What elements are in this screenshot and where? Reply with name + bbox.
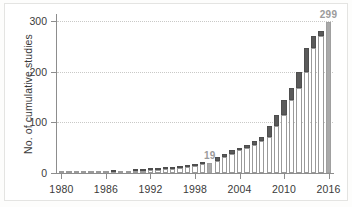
bar-segment-lower	[281, 115, 286, 173]
bar	[126, 171, 131, 173]
bar	[274, 115, 279, 173]
bar	[81, 173, 86, 174]
bar-segment-upper	[244, 145, 249, 149]
bar-segment-lower	[222, 157, 227, 173]
bar-segment-lower	[267, 137, 272, 173]
bar	[252, 141, 257, 173]
y-axis-label: No. of cumulative studies	[22, 19, 34, 169]
bar-segment-upper	[177, 166, 182, 168]
bar	[215, 157, 220, 173]
bar-segment-upper	[133, 169, 138, 171]
bar-segment-lower	[148, 170, 153, 173]
chart-canvas: No. of cumulative studies 0100200300 198…	[0, 0, 352, 207]
x-tick-label: 2016	[307, 183, 351, 195]
bar-segment-upper	[163, 167, 168, 169]
bar	[88, 172, 93, 173]
x-tick-label: 1980	[39, 183, 83, 195]
bar-segment-lower	[185, 167, 190, 173]
bar	[155, 169, 160, 173]
bar-segment-upper	[192, 164, 197, 166]
bar-segment-lower	[229, 154, 234, 173]
bar-segment-upper	[155, 168, 160, 170]
bar	[111, 171, 116, 173]
bar-segment-upper	[281, 100, 286, 116]
bar-segment-lower	[318, 36, 323, 173]
bar	[311, 36, 316, 173]
bar-segment-upper	[259, 137, 264, 142]
bar-segment-lower	[200, 164, 205, 173]
bar-segment-lower	[177, 168, 182, 173]
bar-segment-lower	[259, 141, 264, 173]
bar-segment-lower	[207, 163, 212, 173]
bar-segment-lower	[311, 48, 316, 173]
bar	[296, 72, 301, 173]
bar-segment-lower	[215, 161, 220, 173]
bar-segment-upper	[140, 169, 145, 171]
bar	[59, 173, 64, 174]
bar-segment-lower	[96, 171, 101, 173]
bar-value-label: 299	[320, 9, 338, 20]
bar-segment-upper	[111, 170, 116, 172]
bar-segment-lower	[192, 166, 197, 173]
x-tick-label: 1986	[84, 183, 128, 195]
bar-segment-lower	[59, 171, 64, 173]
x-tick-mark	[240, 173, 241, 179]
bar-segment-lower	[66, 171, 71, 173]
y-tick-label: 0	[13, 167, 47, 179]
bar-segment-lower	[304, 72, 309, 173]
bar-segment-lower	[296, 88, 301, 173]
bar	[237, 148, 242, 173]
bar	[140, 170, 145, 173]
bar	[177, 167, 182, 173]
bar	[304, 48, 309, 173]
bar	[318, 31, 323, 173]
bar-segment-upper	[215, 157, 220, 161]
bar-segment-upper	[274, 115, 279, 126]
bar-segment-lower	[326, 22, 331, 173]
bar-segment-upper	[318, 31, 323, 36]
x-tick-label: 2010	[262, 183, 306, 195]
bar-segment-lower	[74, 171, 79, 173]
bar	[185, 166, 190, 173]
bar-segment-lower	[103, 171, 108, 173]
x-tick-label: 2004	[218, 183, 262, 195]
bar	[192, 164, 197, 173]
bar	[289, 88, 294, 173]
bar-segment-upper	[237, 148, 242, 150]
bar-segment-lower	[126, 171, 131, 173]
bar	[133, 171, 138, 173]
bar-segment-upper	[311, 36, 316, 49]
bar-segment-lower	[163, 169, 168, 173]
bar-segment-upper	[170, 167, 175, 169]
bar-segment-upper	[200, 162, 205, 164]
bar-segment-lower	[88, 171, 93, 173]
bar-segment-upper	[304, 48, 309, 71]
bar-segment-upper	[229, 150, 234, 154]
bar	[267, 126, 272, 173]
bar: 19	[207, 163, 212, 173]
bar-segment-upper	[267, 126, 272, 136]
bar-segment-upper	[296, 72, 301, 88]
bar	[222, 154, 227, 173]
bar	[244, 145, 249, 173]
bar-segment-lower	[237, 150, 242, 173]
x-tick-mark	[329, 173, 330, 179]
bar-segment-lower	[81, 171, 86, 173]
bar-segment-lower	[289, 100, 294, 173]
bar-segment-upper	[148, 168, 153, 170]
bar	[229, 150, 234, 173]
x-tick-label: 1998	[173, 183, 217, 195]
bar-segment-lower	[244, 148, 249, 173]
bar	[66, 173, 71, 174]
bar-segment-upper	[222, 154, 227, 158]
bar	[200, 163, 205, 173]
y-tick-label: 300	[13, 15, 47, 27]
bar-segment-upper	[185, 165, 190, 167]
x-tick-mark	[61, 173, 62, 179]
bar-segment-lower	[140, 171, 145, 173]
y-tick-label: 100	[13, 116, 47, 128]
chart-figure: No. of cumulative studies 0100200300 198…	[0, 0, 352, 207]
bars-container: 19299	[57, 16, 333, 173]
x-tick-mark	[195, 173, 196, 179]
bar	[170, 168, 175, 173]
